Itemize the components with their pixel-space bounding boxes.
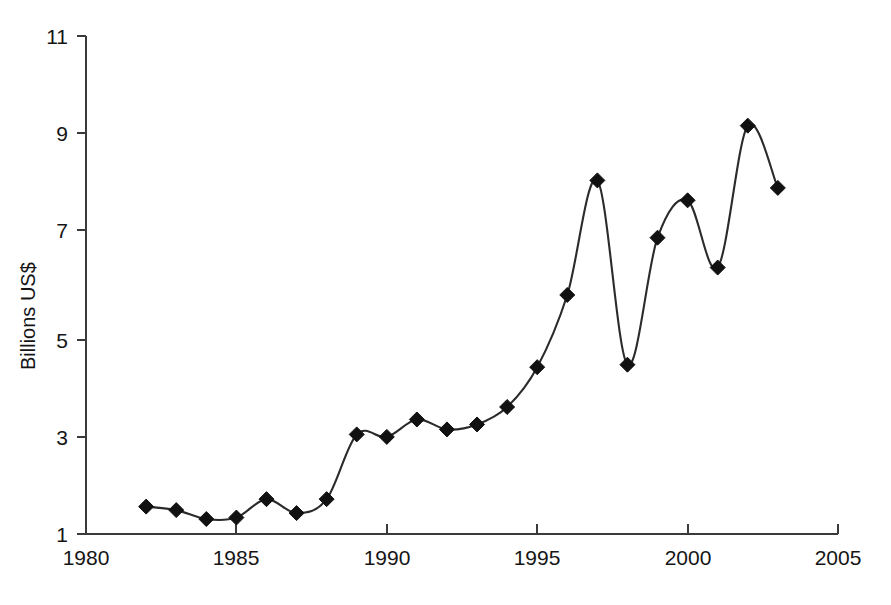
data-point-1995 xyxy=(530,360,545,375)
y-tick-label-11: 11 xyxy=(46,25,68,48)
series-markers xyxy=(139,118,786,526)
data-point-2002 xyxy=(740,118,755,133)
data-point-1985 xyxy=(229,510,244,525)
data-point-1992 xyxy=(439,422,454,437)
data-point-1993 xyxy=(470,417,485,432)
data-point-1989 xyxy=(349,427,364,442)
x-axis-tick-labels: 1980 1985 1990 1995 2000 2005 xyxy=(63,546,862,569)
data-point-1991 xyxy=(409,412,424,427)
chart-container: Billions US$ 11 9 7 5 3 1 xyxy=(0,0,891,605)
data-point-1983 xyxy=(169,503,184,518)
y-axis-tick-labels: 11 9 7 5 3 1 xyxy=(46,25,68,546)
x-tick-label-1990: 1990 xyxy=(364,546,411,569)
y-tick-label-9: 9 xyxy=(56,122,68,145)
data-point-1990 xyxy=(379,429,394,444)
data-point-1984 xyxy=(199,512,214,527)
line-chart: Billions US$ 11 9 7 5 3 1 xyxy=(0,0,891,605)
y-tick-label-1: 1 xyxy=(56,523,68,546)
x-tick-label-2005: 2005 xyxy=(815,546,862,569)
data-point-1987 xyxy=(289,506,304,521)
x-tick-label-1980: 1980 xyxy=(63,546,110,569)
y-tick-label-5: 5 xyxy=(56,329,68,352)
data-point-1999 xyxy=(650,230,665,245)
data-point-1986 xyxy=(259,492,274,507)
data-point-1996 xyxy=(560,287,575,302)
x-tick-label-2000: 2000 xyxy=(665,546,712,569)
x-axis-ticks xyxy=(86,524,838,534)
y-axis-ticks xyxy=(77,36,86,534)
data-point-2003 xyxy=(770,180,785,195)
series-line-billions-usd xyxy=(146,124,778,520)
data-point-1982 xyxy=(139,499,154,514)
x-tick-label-1995: 1995 xyxy=(514,546,561,569)
y-axis-title: Billions US$ xyxy=(17,262,39,370)
x-tick-label-1985: 1985 xyxy=(213,546,260,569)
data-point-2001 xyxy=(710,260,725,275)
y-tick-label-3: 3 xyxy=(56,426,68,449)
y-tick-label-7: 7 xyxy=(56,219,68,242)
data-point-2000 xyxy=(680,193,695,208)
